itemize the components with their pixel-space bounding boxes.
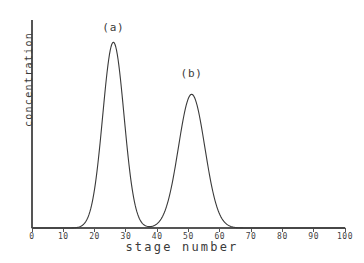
x-axis-title: stage number (0, 240, 364, 254)
plot-area (0, 0, 364, 263)
peak-label-a: (a) (102, 22, 124, 33)
chart-figure: 0102030405060708090100 stage number conc… (0, 0, 364, 263)
peak-label-b: (b) (180, 68, 202, 79)
y-axis-title: concentration (23, 0, 34, 160)
